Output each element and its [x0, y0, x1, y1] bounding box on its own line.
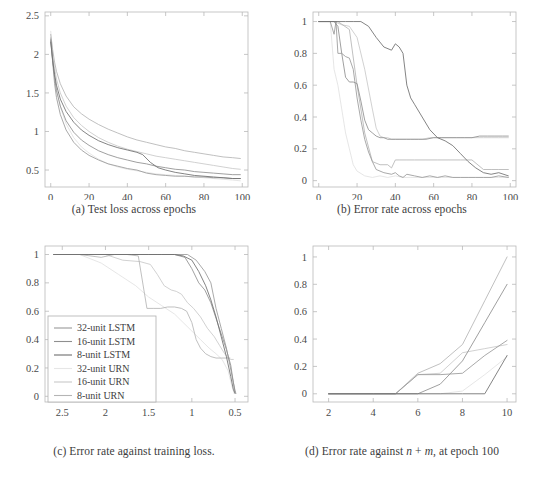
series-line: [51, 39, 241, 175]
x-tick-label: 1: [189, 407, 194, 418]
x-tick-label: 0.5: [228, 407, 241, 418]
series-line: [319, 22, 509, 176]
series-line: [319, 22, 509, 140]
series-line: [51, 37, 241, 169]
y-tick-label: 0.2: [294, 143, 307, 154]
series-line: [329, 257, 507, 394]
series-line: [51, 42, 241, 178]
panel-d-plot: 24681000.20.40.60.81: [268, 230, 536, 498]
panel-d-caption: (d) Error rate against n + m, at epoch 1…: [268, 445, 536, 457]
x-tick-label: 0: [316, 192, 321, 200]
y-tick-label: 0.8: [26, 277, 39, 288]
y-tick-label: 0: [302, 175, 307, 186]
series-line: [319, 22, 509, 170]
y-tick-label: 2.5: [26, 10, 39, 21]
legend-label: 16-unit LSTM: [77, 336, 135, 347]
y-tick-label: 0: [302, 388, 307, 399]
x-tick-label: 80: [467, 192, 478, 200]
legend-label: 32-unit LSTM: [77, 322, 135, 333]
x-tick-label: 100: [234, 192, 250, 200]
x-tick-label: 1.5: [142, 407, 155, 418]
y-tick-label: 1: [302, 16, 307, 27]
figure-grid: 0204060801000.511.522.5 (a) Test loss ac…: [0, 0, 536, 498]
x-tick-label: 100: [502, 192, 518, 200]
plot-frame: [313, 12, 516, 187]
x-tick-label: 8: [460, 407, 465, 418]
y-tick-label: 0.8: [294, 279, 307, 290]
plot-frame: [45, 12, 248, 187]
y-tick-label: 0.4: [294, 334, 308, 345]
x-tick-label: 40: [390, 192, 401, 200]
x-tick-label: 2: [103, 407, 108, 418]
y-tick-label: 0.2: [294, 361, 307, 372]
x-tick-label: 2: [326, 407, 331, 418]
panel-a: 0204060801000.511.522.5 (a) Test loss ac…: [0, 0, 268, 230]
y-tick-label: 0: [34, 391, 39, 402]
x-tick-label: 40: [122, 192, 133, 200]
y-tick-label: 0.6: [294, 80, 307, 91]
y-tick-label: 2: [34, 49, 39, 60]
panel-d-caption-prefix: (d) Error rate against: [305, 445, 406, 457]
panel-c: 2.521.510.500.20.40.60.8132-unit LSTM16-…: [0, 230, 268, 498]
x-tick-label: 4: [371, 407, 377, 418]
x-tick-label: 2.5: [56, 407, 69, 418]
y-tick-label: 1: [302, 252, 307, 263]
x-tick-label: 6: [415, 407, 420, 418]
series-line: [319, 22, 509, 178]
chart-c-svg: 2.521.510.500.20.40.60.8132-unit LSTM16-…: [0, 230, 268, 442]
legend-label: 8-unit URN: [77, 390, 125, 401]
legend-label: 16-unit URN: [77, 376, 130, 387]
x-tick-label: 20: [352, 192, 363, 200]
x-tick-label: 80: [199, 192, 210, 200]
series-line: [329, 345, 507, 394]
y-tick-label: 0.6: [26, 306, 39, 317]
x-tick-label: 60: [428, 192, 439, 200]
x-tick-label: 0: [48, 192, 53, 200]
series-line: [319, 22, 509, 140]
panel-b-plot: 02040608010000.20.40.60.81: [268, 0, 536, 230]
series-line: [319, 22, 509, 178]
y-tick-label: 0.6: [294, 306, 307, 317]
panel-c-caption: (c) Error rate against training loss.: [0, 445, 268, 457]
panel-a-caption: (a) Test loss across epochs: [0, 203, 268, 215]
chart-a-svg: 0204060801000.511.522.5: [0, 0, 268, 200]
legend-label: 8-unit LSTM: [77, 349, 130, 360]
y-tick-label: 0.2: [26, 363, 39, 374]
x-tick-label: 10: [502, 407, 513, 418]
y-tick-label: 0.4: [26, 334, 40, 345]
series-line: [329, 284, 507, 393]
plot-frame: [313, 246, 516, 402]
x-tick-label: 60: [160, 192, 171, 200]
panel-a-plot: 0204060801000.511.522.5: [0, 0, 268, 230]
y-tick-label: 0.8: [294, 48, 307, 59]
y-tick-label: 0.4: [294, 112, 308, 123]
panel-d-caption-m: m: [425, 445, 433, 457]
y-tick-label: 1.5: [26, 88, 39, 99]
panel-d-caption-plus: +: [412, 445, 425, 457]
panel-d-caption-suffix: , at epoch 100: [433, 445, 499, 457]
y-tick-label: 1: [34, 126, 39, 137]
legend-label: 32-unit URN: [77, 363, 130, 374]
panel-b: 02040608010000.20.40.60.81 (b) Error rat…: [268, 0, 536, 230]
chart-b-svg: 02040608010000.20.40.60.81: [268, 0, 536, 200]
series-line: [51, 34, 241, 158]
y-tick-label: 0.5: [26, 165, 39, 176]
panel-b-caption: (b) Error rate across epochs: [268, 203, 536, 215]
series-line: [51, 31, 241, 181]
y-tick-label: 1: [34, 249, 39, 260]
panel-c-plot: 2.521.510.500.20.40.60.8132-unit LSTM16-…: [0, 230, 268, 498]
series-line: [329, 357, 507, 394]
x-tick-label: 20: [84, 192, 95, 200]
chart-d-svg: 24681000.20.40.60.81: [268, 230, 536, 442]
panel-d: 24681000.20.40.60.81 (d) Error rate agai…: [268, 230, 536, 498]
series-line: [329, 340, 507, 393]
